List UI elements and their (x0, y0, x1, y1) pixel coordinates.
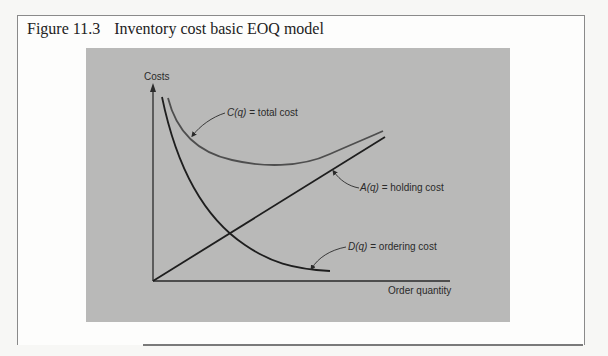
total-cost-text: = total cost (246, 107, 298, 118)
ordering-cost-symbol: D(q) (348, 241, 367, 252)
x-axis-label: Order quantity (388, 285, 451, 296)
ordering-cost-curve (162, 97, 330, 271)
holding-cost-symbol: A(q) (359, 182, 379, 193)
ordering-cost-leader (312, 247, 346, 268)
ordering-cost-label: D(q) = ordering cost (348, 241, 437, 252)
eoq-chart: Costs Order quantity C(q) = total cost A… (0, 0, 608, 356)
holding-cost-text: = holding cost (379, 182, 444, 193)
total-cost-leader (193, 113, 225, 135)
total-cost-label: C(q) = total cost (227, 107, 298, 118)
y-axis-label: Costs (144, 71, 170, 82)
ordering-cost-text: = ordering cost (367, 241, 436, 252)
y-axis-arrow-icon (150, 83, 156, 92)
total-cost-symbol: C(q) (227, 107, 246, 118)
holding-cost-leader (334, 172, 359, 188)
holding-cost-label: A(q) = holding cost (359, 182, 444, 193)
